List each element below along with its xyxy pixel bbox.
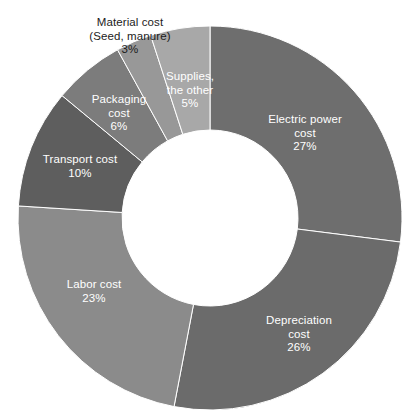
donut-slice[interactable]: [18, 206, 194, 407]
donut-slice[interactable]: [210, 26, 402, 242]
donut-slice-group: [18, 26, 402, 410]
donut-chart: Electric power cost 27%Depreciation cost…: [0, 0, 415, 418]
donut-slice[interactable]: [174, 229, 400, 410]
donut-chart-svg: [0, 0, 415, 418]
